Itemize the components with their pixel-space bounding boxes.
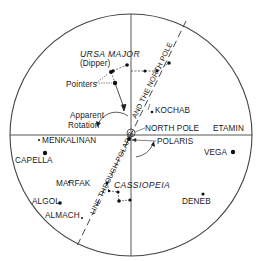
polaris-pointer <box>132 139 156 142</box>
label-pointers: Pointers <box>66 80 97 89</box>
label-capella: CAPELLA <box>15 156 53 165</box>
star-ursa-major-handle-1 <box>143 69 146 72</box>
star-chart: URSA MAJOR (Dipper) Pointers Apparent Ro… <box>0 0 259 261</box>
north-pole-pointer <box>135 128 145 132</box>
star-cassiopeia-4 <box>117 199 121 203</box>
label-deneb: DENEB <box>182 197 211 206</box>
star-pointer-top <box>109 70 113 74</box>
star-ursa-major-handle-3 <box>167 61 171 65</box>
label-north-pole: NORTH POLE <box>145 124 200 133</box>
label-dipper: (Dipper) <box>80 59 111 68</box>
label-etamin: ETAMIN <box>213 124 244 133</box>
star-capella <box>43 151 47 155</box>
star-chart-svg: URSA MAJOR (Dipper) Pointers Apparent Ro… <box>0 0 259 261</box>
label-algol: ALGOL <box>32 197 60 206</box>
pointers-arrow <box>115 83 126 111</box>
star-almach <box>81 217 83 219</box>
star-menkalinan <box>38 139 40 141</box>
pointers-label-arrows <box>96 74 112 83</box>
label-cassiopeia: CASSIOPEIA <box>114 180 170 190</box>
label-vega: VEGA <box>204 148 228 157</box>
label-apparent: Apparent <box>70 111 105 120</box>
label-polaris: POLARIS <box>157 137 194 146</box>
star-vega <box>231 150 235 154</box>
label-kochab: KOCHAB <box>155 106 191 115</box>
star-cassiopeia-5 <box>128 198 131 201</box>
label-ursa-major: URSA MAJOR <box>80 49 140 59</box>
star-ursa-major-1 <box>125 63 129 67</box>
star-pointer-bottom <box>113 81 117 85</box>
label-rotation: Rotation <box>68 121 100 130</box>
star-cassiopeia-3 <box>116 190 119 193</box>
label-marfak: MARFAK <box>56 179 91 188</box>
label-menkalinan: MENKALINAN <box>42 136 96 145</box>
kochab-tick <box>148 104 150 110</box>
star-deneb <box>201 192 204 195</box>
label-almach: ALMACH <box>45 211 80 220</box>
star-kochab <box>151 111 154 114</box>
